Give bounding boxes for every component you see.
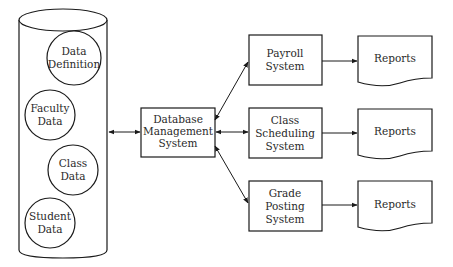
reports-document-3: Reports — [358, 181, 432, 231]
data-definition-line1: Data — [61, 45, 86, 57]
grade-posting-system-box: Grade Posting System — [249, 181, 322, 231]
faculty-data-line2: Data — [37, 115, 62, 127]
student-data-line1: Student — [29, 210, 72, 222]
reports-2-label: Reports — [374, 125, 416, 137]
class-data-line2: Data — [60, 170, 85, 182]
scheduling-line3: System — [266, 140, 305, 152]
grade-line1: Grade — [269, 187, 302, 199]
class-data-line1: Class — [59, 157, 87, 169]
faculty-data-circle: Faculty Data — [25, 90, 75, 140]
payroll-system-box: Payroll System — [249, 35, 322, 85]
dbms-grade-arrow — [215, 146, 248, 203]
faculty-data-line1: Faculty — [31, 102, 70, 114]
class-data-circle: Class Data — [48, 145, 98, 195]
student-data-line2: Data — [37, 223, 62, 235]
payroll-line2: System — [266, 60, 305, 72]
reports-1-label: Reports — [374, 52, 416, 64]
reports-3-label: Reports — [374, 198, 416, 210]
grade-line3: System — [266, 213, 305, 225]
dbms-line2: Management — [143, 125, 214, 137]
reports-document-1: Reports — [358, 36, 432, 86]
dbms-line1: Database — [153, 113, 203, 125]
data-definition-circle: Data Definition — [47, 31, 101, 85]
diagram-canvas: Data Definition Faculty Data Class Data … — [0, 0, 453, 267]
student-data-circle: Student Data — [25, 198, 75, 248]
dbms-box: Database Management System — [141, 108, 215, 157]
dbms-line3: System — [159, 137, 198, 149]
scheduling-line2: Scheduling — [255, 127, 315, 139]
scheduling-line1: Class — [271, 114, 299, 126]
reports-document-2: Reports — [358, 109, 432, 159]
payroll-line1: Payroll — [267, 47, 304, 59]
class-scheduling-system-box: Class Scheduling System — [249, 108, 322, 158]
data-definition-line2: Definition — [48, 58, 101, 70]
dbms-payroll-arrow — [215, 62, 248, 120]
grade-line2: Posting — [265, 200, 305, 212]
